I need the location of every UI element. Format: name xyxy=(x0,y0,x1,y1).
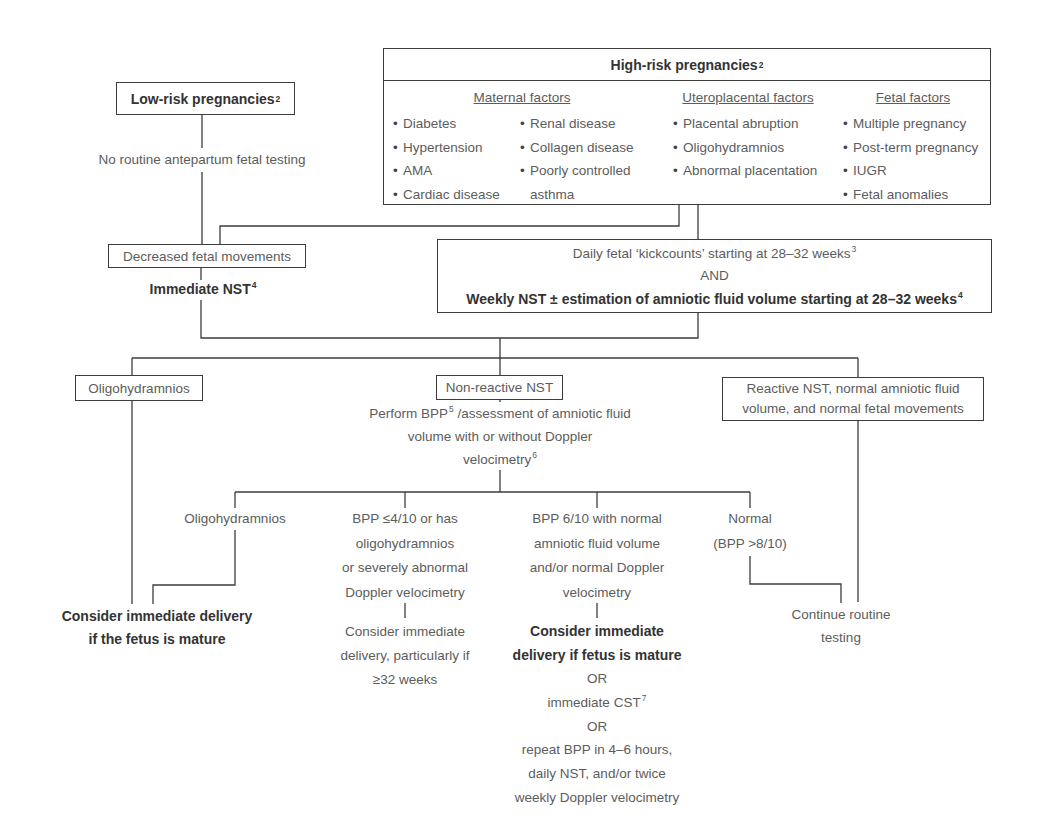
list-item: Hypertension xyxy=(393,136,500,160)
weekly-nst-line: Weekly NST ± estimation of amniotic flui… xyxy=(466,288,962,311)
result-oligohydramnios-text: Oligohydramnios xyxy=(175,507,295,531)
list-item: Cardiac disease xyxy=(393,183,500,207)
list-item: Multiple pregnancy xyxy=(843,112,978,136)
reactive-nst-line: Reactive NST, normal amniotic fluid xyxy=(746,379,959,399)
mid-score-line: and/or normal Doppler xyxy=(502,556,692,581)
low-score-line: BPP ≤4/10 or has xyxy=(315,507,495,532)
mid-score-line: BPP 6/10 with normal xyxy=(502,507,692,532)
list-item: Diabetes xyxy=(393,112,500,136)
list-item: Collagen disease xyxy=(520,136,634,160)
normal-line: Normal xyxy=(700,507,800,532)
maternal-factors-list-2: Renal disease Collagen disease Poorly co… xyxy=(520,112,634,206)
high-risk-title-text: High-risk pregnancies xyxy=(611,57,758,73)
footnote-ref: 3 xyxy=(852,244,857,254)
decreased-fetal-movements-box: Decreased fetal movements xyxy=(108,244,306,268)
immediate-cst-text: immediate CST xyxy=(548,695,641,710)
list-item: IUGR xyxy=(843,159,978,183)
uteroplacental-factors-list: Placental abruption Oligohydramnios Abno… xyxy=(673,112,817,183)
bpp-text: velocimetry xyxy=(463,452,531,467)
normal-line: (BPP >8/10) xyxy=(700,532,800,557)
decreased-fetal-movements-label: Decreased fetal movements xyxy=(123,249,291,264)
immediate-nst: Immediate NST4 xyxy=(133,278,273,302)
weekly-nst-text: Weekly NST ± estimation of amniotic flui… xyxy=(466,291,957,307)
continue-routine-testing: Continue routine testing xyxy=(771,603,911,649)
no-routine-testing-note: No routine antepartum fetal testing xyxy=(62,148,342,172)
and-connector: AND xyxy=(700,265,729,288)
mid-score-line: amniotic fluid volume xyxy=(502,532,692,557)
repeat-bpp-line: weekly Doppler velocimetry xyxy=(487,786,707,810)
bpp-text: Perform BPP xyxy=(369,406,448,421)
deliver-if-mature-line: Consider immediate delivery xyxy=(47,605,267,628)
maternal-factors-list-1: Diabetes Hypertension AMA Cardiac diseas… xyxy=(393,112,500,206)
mid-score-action-bold: delivery if fetus is mature xyxy=(487,644,707,668)
non-reactive-nst-label: Non-reactive NST xyxy=(446,380,553,395)
mid-score-action-bold: Consider immediate xyxy=(487,620,707,644)
low-score-action-line: ≥32 weeks xyxy=(315,668,495,692)
antepartum-testing-flowchart: Low-risk pregnancies2 No routine antepar… xyxy=(0,0,1046,832)
fetal-factors-header: Fetal factors xyxy=(853,89,973,107)
immediate-cst-line: immediate CST7 xyxy=(487,691,707,715)
result-oligohydramnios: Oligohydramnios xyxy=(175,507,295,531)
continue-routine-line: Continue routine xyxy=(771,603,911,626)
result-mid-score: BPP 6/10 with normal amniotic fluid volu… xyxy=(502,507,692,605)
non-reactive-nst-box: Non-reactive NST xyxy=(436,375,563,400)
list-item: Placental abruption xyxy=(673,112,817,136)
repeat-bpp-line: daily NST, and/or twice xyxy=(487,762,707,786)
high-risk-box: High-risk pregnancies2 Maternal factors … xyxy=(383,48,991,205)
list-item: Fetal anomalies xyxy=(843,183,978,207)
footnote-ref: 4 xyxy=(958,290,963,300)
result-normal: Normal (BPP >8/10) xyxy=(700,507,800,556)
bpp-line-2: volume with or without Doppler xyxy=(360,425,640,448)
low-risk-box: Low-risk pregnancies2 xyxy=(116,82,295,115)
footnote-ref: 6 xyxy=(532,450,537,460)
continue-routine-line: testing xyxy=(771,626,911,649)
list-item: Oligohydramnios xyxy=(673,136,817,160)
low-score-action-line: delivery, particularly if xyxy=(315,644,495,668)
deliver-if-mature: Consider immediate delivery if the fetus… xyxy=(47,605,267,651)
low-score-line: Doppler velocimetry xyxy=(315,581,495,606)
reactive-nst-box: Reactive NST, normal amniotic fluid volu… xyxy=(722,377,984,421)
deliver-if-mature-line: if the fetus is mature xyxy=(47,628,267,651)
list-item-continuation: asthma xyxy=(520,183,634,207)
mid-score-action: Consider immediate delivery if fetus is … xyxy=(487,620,707,810)
maternal-factors-header: Maternal factors xyxy=(452,89,592,107)
or-connector: OR xyxy=(487,715,707,739)
immediate-nst-text: Immediate NST xyxy=(150,281,251,297)
footnote-ref: 7 xyxy=(642,693,647,703)
repeat-bpp-line: repeat BPP in 4–6 hours, xyxy=(487,738,707,762)
footnote-ref: 4 xyxy=(252,280,257,290)
bpp-line-3: velocimetry6 xyxy=(360,448,640,471)
low-score-line: or severely abnormal xyxy=(315,556,495,581)
list-item: Post-term pregnancy xyxy=(843,136,978,160)
perform-bpp-step: Perform BPP5 /assessment of amniotic flu… xyxy=(360,402,640,471)
low-score-action-line: Consider immediate xyxy=(315,620,495,644)
fetal-factors-list: Multiple pregnancy Post-term pregnancy I… xyxy=(843,112,978,206)
high-risk-title: High-risk pregnancies2 xyxy=(384,49,990,81)
list-item: Renal disease xyxy=(520,112,634,136)
bpp-line-1: Perform BPP5 /assessment of amniotic flu… xyxy=(360,402,640,425)
low-score-action: Consider immediate delivery, particularl… xyxy=(315,620,495,692)
kickcounts-text: Daily fetal ‘kickcounts’ starting at 28–… xyxy=(573,246,851,261)
surveillance-box: Daily fetal ‘kickcounts’ starting at 28–… xyxy=(437,239,992,313)
or-connector: OR xyxy=(487,667,707,691)
low-risk-title: Low-risk pregnancies xyxy=(131,91,275,107)
no-routine-testing-text: No routine antepartum fetal testing xyxy=(98,152,305,167)
mid-score-line: velocimetry xyxy=(502,581,692,606)
uteroplacental-factors-header: Uteroplacental factors xyxy=(668,89,828,107)
oligohydramnios-label: Oligohydramnios xyxy=(88,381,189,396)
list-item: AMA xyxy=(393,159,500,183)
result-low-score: BPP ≤4/10 or has oligohydramnios or seve… xyxy=(315,507,495,605)
reactive-nst-line: volume, and normal fetal movements xyxy=(742,399,963,419)
list-item: Poorly controlled xyxy=(520,159,634,183)
kickcounts-line: Daily fetal ‘kickcounts’ starting at 28–… xyxy=(573,243,857,266)
list-item: Abnormal placentation xyxy=(673,159,817,183)
oligohydramnios-box: Oligohydramnios xyxy=(75,375,203,401)
low-score-line: oligohydramnios xyxy=(315,532,495,557)
bpp-text: /assessment of amniotic fluid xyxy=(454,406,631,421)
